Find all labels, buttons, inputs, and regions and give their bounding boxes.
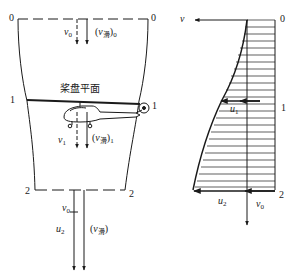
- v-slip-0-label: (v滑)0: [95, 27, 117, 40]
- v-axis-label: v: [180, 14, 184, 24]
- profile-station-2-label: 2: [279, 190, 284, 200]
- station-2-left-label: 2: [25, 186, 30, 196]
- rotor-plane: [27, 100, 140, 104]
- station-1-left-label: 1: [10, 95, 15, 105]
- velocity-arrows-station-2: [70, 190, 84, 270]
- station-2-right-label: 2: [129, 189, 134, 199]
- rotor-plane-label: 桨盘平面: [60, 84, 100, 94]
- profile-curve: [193, 20, 247, 190]
- velocity-profile: [193, 20, 275, 225]
- diagram-canvas: [0, 0, 294, 279]
- station-0-right-label: 0: [151, 13, 156, 23]
- station-1-right-label: 1: [152, 101, 157, 111]
- v1-label: v1: [58, 135, 66, 148]
- v0-profile-label: v0: [256, 199, 264, 212]
- station-0-left-label: 0: [9, 13, 14, 23]
- v-slip-1-label: (v滑)1: [92, 133, 114, 146]
- profile-station-0-label: 0: [280, 14, 285, 24]
- v0-label: v0: [64, 27, 72, 40]
- u1-label: u1: [230, 104, 239, 117]
- v0-bottom-label: v0: [62, 203, 70, 216]
- u2-profile-label: u2: [218, 196, 227, 209]
- v-slip-label: (v滑): [90, 224, 108, 237]
- profile-station-1-label: 1: [281, 103, 286, 113]
- streamtube-left-wall: [18, 19, 35, 190]
- velocity-arrows-station-0: [77, 19, 87, 44]
- u2-label: u2: [56, 224, 65, 237]
